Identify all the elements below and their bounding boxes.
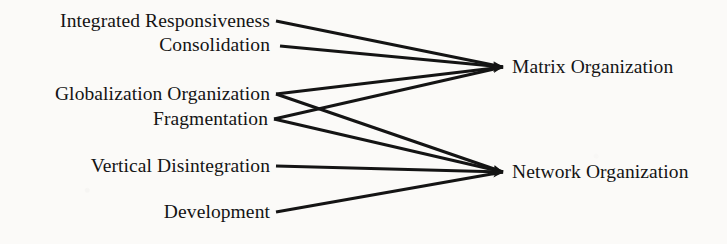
target-label-text: Matrix Organization [512,56,673,77]
source-label-text: Integrated Responsiveness [60,10,270,31]
source-node-integrated-responsiveness: Integrated Responsiveness [60,11,270,31]
edge-globalization_organization-to-network_organization [276,94,503,172]
source-label-text: Vertical Disintegration [91,155,270,176]
source-label-text: Consolidation [159,34,270,55]
edge-fragmentation-to-matrix_organization [274,67,503,119]
source-label-text: Development [164,201,270,222]
diagram-canvas: Integrated Responsiveness Consolidation … [0,0,727,244]
edge-vertical_disintegration-to-network_organization [276,166,503,172]
source-node-vertical-disintegration: Vertical Disintegration [91,156,270,176]
source-node-globalization-organization: Globalization Organization [55,84,270,104]
target-label-text: Network Organization [512,161,689,182]
edge-layer [0,0,727,244]
edge-consolidation-to-matrix_organization [280,46,503,67]
source-label-text: Globalization Organization [55,83,270,104]
target-node-matrix-organization: Matrix Organization [512,57,673,77]
source-node-consolidation: Consolidation [159,35,270,55]
edge-globalization_organization-to-matrix_organization [276,67,503,94]
target-node-network-organization: Network Organization [512,162,689,182]
source-node-development: Development [164,202,270,222]
source-label-text: Fragmentation [153,108,268,129]
source-node-fragmentation: Fragmentation [153,109,268,129]
edge-integrated_responsiveness-to-matrix_organization [276,21,503,67]
edge-development-to-network_organization [276,172,503,212]
edge-fragmentation-to-network_organization [274,119,503,172]
